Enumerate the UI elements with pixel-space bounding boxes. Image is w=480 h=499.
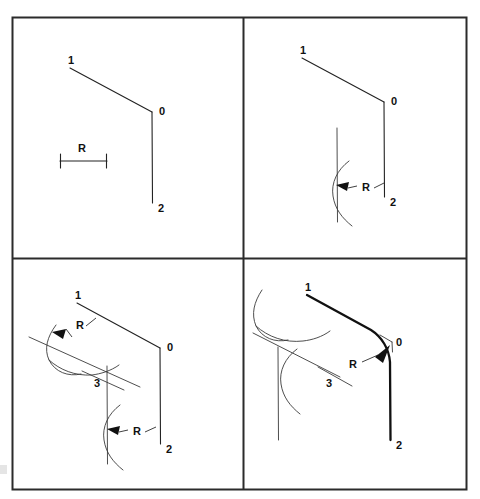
panel4-label-point-0: 0	[396, 336, 402, 348]
fillet-construction-figure: 1 0 2 R 1 0 2	[0, 0, 480, 499]
panel1-line-0-to-2	[152, 112, 153, 203]
scan-artifact-mark	[0, 465, 7, 474]
panel1-label-point-1: 1	[68, 54, 74, 66]
panel1-label-point-0: 0	[159, 105, 165, 117]
panel1-label-radius: R	[78, 142, 86, 154]
panel4-parallel-line-offset-from-0-2	[278, 347, 279, 440]
panel4-original-corner-remnant-b	[392, 342, 393, 352]
panel3-label-point-2: 2	[166, 443, 172, 455]
panel3-label-radius-upper: R	[76, 319, 84, 331]
panel3-label-point-1: 1	[75, 289, 81, 301]
panel1-label-point-2: 2	[158, 202, 164, 214]
figure-root: 1 0 2 R 1 0 2	[0, 0, 480, 499]
panel2-label-point-1: 1	[300, 44, 306, 56]
panel3-label-point-0: 0	[167, 341, 173, 353]
panel4-label-point-1: 1	[305, 281, 311, 293]
panel4-label-radius: R	[349, 358, 357, 370]
panel3-label-radius-lower: R	[133, 425, 141, 437]
panel2-label-point-2: 2	[390, 196, 396, 208]
panel2-line-0-to-2	[384, 102, 385, 197]
panel2-label-radius: R	[362, 181, 370, 193]
panel2-label-point-0: 0	[391, 95, 397, 107]
panel4-label-point-2: 2	[396, 439, 402, 451]
panel4-label-point-3: 3	[326, 377, 332, 389]
figure-background	[0, 0, 480, 499]
panel3-line-0-to-2	[160, 348, 161, 444]
